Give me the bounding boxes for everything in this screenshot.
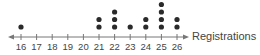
data-dot [128, 24, 133, 29]
x-tick-label: 16 [16, 41, 27, 52]
axis-left-arrow [8, 35, 14, 40]
x-tick-label: 25 [156, 41, 167, 52]
data-dot [159, 2, 164, 7]
x-tick-label: 18 [47, 41, 58, 52]
x-tick-label: 26 [172, 41, 183, 52]
data-dot [112, 17, 117, 22]
data-dot [174, 17, 179, 22]
data-dot [159, 24, 164, 29]
data-dot [174, 24, 179, 29]
x-tick-label: 22 [109, 41, 120, 52]
x-tick-label: 21 [94, 41, 105, 52]
data-dots [18, 2, 179, 30]
x-tick-label: 17 [31, 41, 42, 52]
x-tick-label: 24 [141, 41, 152, 52]
data-dot [112, 24, 117, 29]
x-tick-label: 23 [125, 41, 136, 52]
data-dot [143, 17, 148, 22]
data-dot [112, 9, 117, 14]
data-dot [159, 17, 164, 22]
x-axis-label: Registrations [192, 30, 257, 42]
data-dot [18, 24, 23, 29]
data-dot [96, 17, 101, 22]
x-tick-label: 20 [78, 41, 89, 52]
axis-right-arrow [183, 35, 189, 40]
dot-plot: 1617181920212223242526 Registrations [0, 0, 260, 55]
x-tick-label: 19 [63, 41, 74, 52]
data-dot [96, 24, 101, 29]
data-dot [159, 9, 164, 14]
data-dot [143, 24, 148, 29]
